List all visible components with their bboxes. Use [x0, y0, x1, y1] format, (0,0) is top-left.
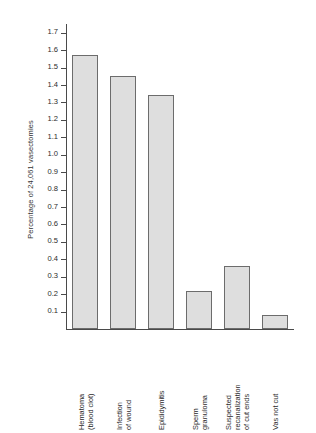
- bar-chart-figure: Percentage of 24,061 vasectomies 1.71.61…: [0, 0, 316, 433]
- y-tick: 0.1: [61, 312, 66, 313]
- y-tick-label: 0.6: [47, 219, 58, 229]
- y-tick-label: 0.1: [47, 306, 58, 316]
- y-tick: 1.6: [61, 50, 66, 51]
- x-tick-label: Suspectedrecanalizationof cut ends: [225, 384, 251, 430]
- y-tick-label: 0.2: [47, 289, 58, 299]
- y-tick: 0.7: [61, 207, 66, 208]
- plot-area: 1.71.61.51.41.31.21.11.00.90.80.70.60.50…: [66, 24, 294, 330]
- x-axis-line: [66, 329, 294, 330]
- bar: [224, 266, 250, 329]
- y-tick: 1.5: [61, 68, 66, 69]
- y-axis-line: [66, 24, 67, 330]
- y-tick-label: 1.2: [47, 114, 58, 124]
- bar: [72, 55, 98, 329]
- y-tick: 1.0: [61, 155, 66, 156]
- bar: [148, 95, 174, 329]
- y-tick: 0.9: [61, 172, 66, 173]
- y-tick-label: 1.5: [47, 62, 58, 72]
- y-tick: 1.1: [61, 137, 66, 138]
- y-tick-label: 1.1: [47, 132, 58, 142]
- y-tick: 1.3: [61, 102, 66, 103]
- y-tick-label: 0.5: [47, 236, 58, 246]
- x-tick-label: Vas not cut: [272, 394, 281, 430]
- bar: [110, 76, 136, 329]
- y-tick-label: 1.3: [47, 97, 58, 107]
- y-tick: 0.3: [61, 277, 66, 278]
- y-tick-label: 0.3: [47, 271, 58, 281]
- y-tick: 1.2: [61, 120, 66, 121]
- y-tick: 0.5: [61, 242, 66, 243]
- x-tick-label: Spermgranuloma: [192, 395, 210, 430]
- y-tick-label: 1.6: [47, 45, 58, 55]
- y-tick: 1.7: [61, 33, 66, 34]
- y-tick: 0.4: [61, 259, 66, 260]
- y-tick-label: 1.4: [47, 80, 58, 90]
- y-axis-title: Percentage of 24,061 vasectomies: [26, 80, 35, 280]
- bar: [186, 291, 212, 329]
- y-tick-label: 0.9: [47, 167, 58, 177]
- y-tick: 1.4: [61, 85, 66, 86]
- y-tick-label: 1.0: [47, 149, 58, 159]
- x-tick-label: Epididymitis: [158, 391, 167, 430]
- y-tick-label: 1.7: [47, 27, 58, 37]
- y-tick-label: 0.7: [47, 202, 58, 212]
- y-tick: 0.6: [61, 224, 66, 225]
- y-tick-label: 0.8: [47, 184, 58, 194]
- x-tick-label: Hematoma(blood clot): [78, 393, 96, 430]
- y-tick: 0.8: [61, 190, 66, 191]
- x-tick-label: Infectionof wound: [116, 400, 134, 430]
- bar: [262, 315, 288, 329]
- y-tick: 0.2: [61, 294, 66, 295]
- y-tick-label: 0.4: [47, 254, 58, 264]
